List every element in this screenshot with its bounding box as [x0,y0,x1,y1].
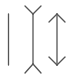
muller-lyer-figure [0,0,72,80]
fins-out-line [25,6,41,73]
arrowheads-line [49,14,65,65]
